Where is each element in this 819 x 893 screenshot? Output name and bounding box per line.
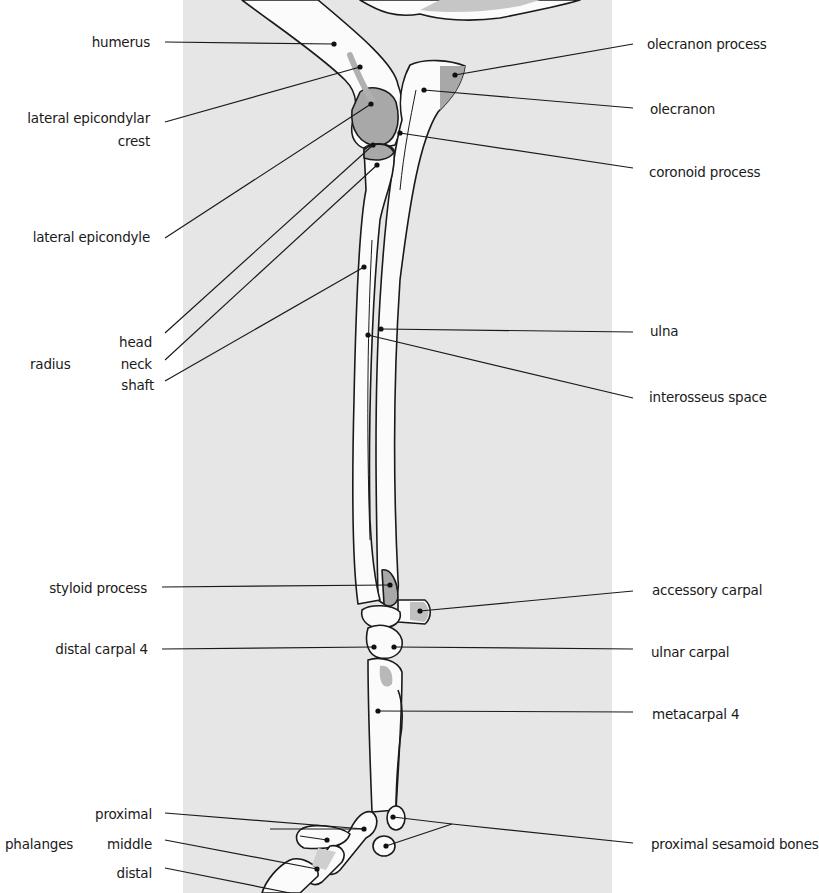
leader-phalanx-middle <box>165 840 317 869</box>
dot-lateral-epicondyle <box>368 101 373 106</box>
humerus-condyle <box>352 88 398 146</box>
leader-ulna <box>381 329 633 332</box>
label-phalanges-group: phalanges <box>5 836 73 852</box>
olecranon-process-shading <box>440 66 465 110</box>
label-coronoid-process: coronoid process <box>649 164 760 180</box>
label-lateral-epicondyle: lateral epicondyle <box>0 229 150 245</box>
leader-lateral-epicondyle <box>165 104 371 238</box>
dot-accessory-carpal <box>417 608 422 613</box>
label-humerus: humerus <box>40 34 150 50</box>
leader-radius-shaft <box>165 267 364 381</box>
dot-coronoid-process <box>397 130 402 135</box>
dot-interosseus-space <box>365 332 370 337</box>
dot-radius-shaft <box>361 264 366 269</box>
leader-sesamoid-main <box>452 824 633 843</box>
label-ulnar-carpal: ulnar carpal <box>651 644 729 660</box>
label-proximal-sesamoid-bones: proximal sesamoid bones <box>651 836 819 852</box>
dot-sesamoid-a <box>390 814 395 819</box>
label-phalanx-middle: middle <box>70 836 152 852</box>
dot-phalanx-proximal <box>361 826 366 831</box>
dot-phalanx-distal <box>314 866 319 871</box>
label-radius-shaft: shaft <box>80 377 154 393</box>
dot-metacarpal-4 <box>375 708 380 713</box>
label-phalanx-distal: distal <box>70 865 152 881</box>
dot-lateral-epicondylar-crest <box>357 64 362 69</box>
label-radius-neck: neck <box>80 356 152 372</box>
label-distal-carpal-4: distal carpal 4 <box>0 641 148 657</box>
dot-ulna <box>378 326 383 331</box>
dot-distal-carpal-4 <box>371 644 376 649</box>
label-metacarpal-4: metacarpal 4 <box>652 706 739 722</box>
label-interosseus-space: interosseus space <box>649 389 767 405</box>
label-accessory-carpal: accessory carpal <box>652 582 762 598</box>
label-styloid-process: styloid process <box>0 580 147 596</box>
dot-olecranon-process <box>452 72 457 77</box>
leader-distal-carpal-4 <box>162 647 374 649</box>
dot-humerus <box>331 41 336 46</box>
label-olecranon: olecranon <box>650 101 715 117</box>
label-lateral-epicondylar-crest-line2: crest <box>0 133 150 149</box>
dot-olecranon <box>421 87 426 92</box>
leader-phalanx-proximal <box>165 813 364 829</box>
label-lateral-epicondylar-crest-line1: lateral epicondylar <box>0 110 150 126</box>
dot-styloid-process <box>387 582 392 587</box>
leader-radius-neck <box>165 165 377 360</box>
leader-coronoid-process <box>400 133 633 168</box>
label-radius-group: radius <box>30 356 71 372</box>
dot-sesamoid-b <box>383 843 388 848</box>
leader-lateral-epicondylar-crest <box>165 67 360 122</box>
leader-interosseus-space <box>368 335 633 398</box>
dot-radius-head <box>370 142 375 147</box>
leader-olecranon <box>424 90 633 108</box>
dot-phalanx-middle <box>324 837 329 842</box>
radius-head-shading <box>364 144 394 160</box>
leader-radius-head <box>165 145 373 333</box>
label-olecranon-process: olecranon process <box>647 36 767 52</box>
label-phalanx-proximal: proximal <box>70 806 152 822</box>
label-ulna: ulna <box>650 323 678 339</box>
dot-radius-neck <box>374 162 379 167</box>
carpal-row-2 <box>367 625 403 658</box>
leader-metacarpal-4 <box>378 711 633 712</box>
label-radius-head: head <box>80 334 152 350</box>
leader-ulnar-carpal <box>394 647 633 649</box>
leader-accessory-carpal <box>420 591 633 611</box>
leader-olecranon-process <box>455 44 633 75</box>
dot-ulnar-carpal <box>391 644 396 649</box>
